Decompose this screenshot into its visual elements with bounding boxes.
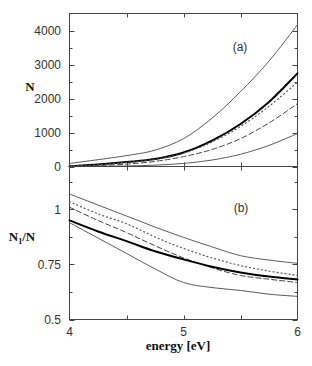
figure: 01000200030004000 (a) N 0.50.751 456 (b)… xyxy=(0,0,312,366)
curve-thin-solid xyxy=(70,194,298,263)
y-tick-label: 0 xyxy=(54,160,61,174)
y-tick-label: 2000 xyxy=(34,92,61,106)
panel-b-plot: 0.50.751 456 (b) N1/N xyxy=(9,167,301,340)
panel-b-y-axis-label: N1/N xyxy=(9,229,36,246)
curve-dotted xyxy=(70,202,298,276)
panel-b-label: (b) xyxy=(234,201,249,215)
x-tick-label: 4 xyxy=(66,325,73,339)
panel-b-ticks xyxy=(70,167,298,321)
panel-a-y-tick-labels: 01000200030004000 xyxy=(34,24,61,174)
panel-b-frame xyxy=(70,167,298,320)
y-tick-label: 0.75 xyxy=(38,258,62,272)
panel-a-y-axis-label: N xyxy=(25,79,35,94)
y-tick-label: 1 xyxy=(54,203,61,217)
curve-thin-solid xyxy=(70,25,298,164)
y-tick-label: 4000 xyxy=(34,24,61,38)
y-label-rest: /N xyxy=(21,229,36,244)
x-axis-label: energy [eV] xyxy=(146,338,211,353)
x-tick-labels: 456 xyxy=(66,325,301,339)
x-tick-label: 6 xyxy=(294,325,301,339)
panel-a-frame xyxy=(70,14,298,167)
y-tick-label: 0.5 xyxy=(44,313,61,327)
panel-a-label: (a) xyxy=(233,40,248,54)
panel-a-plot: 01000200030004000 (a) N xyxy=(25,14,297,175)
panel-a-curves xyxy=(70,25,298,167)
panel-b-curves xyxy=(70,194,298,296)
panel-a-ticks xyxy=(70,14,298,168)
y-tick-label: 3000 xyxy=(34,58,61,72)
x-tick-label: 5 xyxy=(180,325,187,339)
curve-dashed xyxy=(70,207,298,282)
y-tick-label: 1000 xyxy=(34,126,61,140)
curve-thick-solid xyxy=(70,73,298,166)
curve-thick-solid xyxy=(70,220,298,279)
panel-b-y-tick-labels: 0.50.751 xyxy=(38,203,62,327)
curve-dashed xyxy=(70,104,298,167)
